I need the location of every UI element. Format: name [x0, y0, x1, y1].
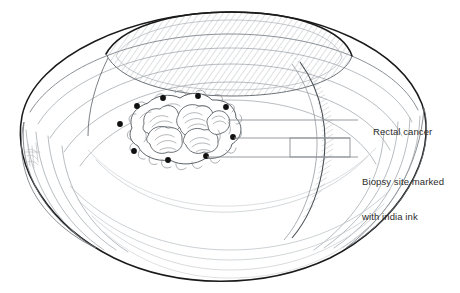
india-ink-dot-6	[230, 134, 236, 140]
india-ink-dot-4	[223, 104, 229, 110]
label-biopsy-site: Biopsy site marked with india ink	[362, 153, 444, 245]
tumor-lobes	[143, 105, 230, 154]
india-ink-dot-2	[195, 93, 201, 99]
india-ink-dot-5	[117, 121, 123, 127]
illustration-figure: Rectal cancer Biopsy site marked with in…	[0, 0, 460, 293]
label-biopsy-site-line1: Biopsy site marked	[362, 176, 444, 188]
india-ink-dot-3	[134, 103, 140, 109]
india-ink-dot-8	[165, 157, 171, 163]
india-ink-dot-9	[203, 153, 209, 159]
label-rectal-cancer: Rectal cancer	[362, 114, 432, 149]
label-biopsy-site-line2: with india ink	[362, 211, 444, 223]
india-ink-dot-7	[131, 148, 137, 154]
label-rectal-cancer-text: Rectal cancer	[373, 126, 432, 137]
india-ink-dot-1	[160, 95, 166, 101]
